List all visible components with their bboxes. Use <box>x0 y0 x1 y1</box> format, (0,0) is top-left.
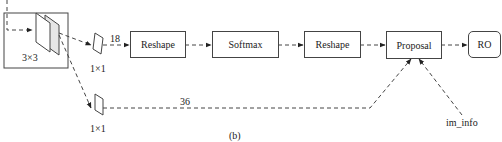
channels-36-label: 36 <box>180 97 190 107</box>
reshape-box-2: Reshape <box>304 31 361 58</box>
conv1x1-bottom-label: 1×1 <box>90 124 106 134</box>
channels-18-label: 18 <box>110 34 120 44</box>
conv1x1-bottom-plane <box>95 94 103 115</box>
figure-caption: (b) <box>229 131 241 141</box>
im-info-label: im_info <box>446 118 478 128</box>
conv3x3-label: 3×3 <box>22 53 38 63</box>
diagram-lines <box>0 0 502 142</box>
reshape-box-1: Reshape <box>130 31 186 58</box>
input-arrow <box>7 0 32 30</box>
conv1x1-top-label: 1×1 <box>90 64 106 74</box>
conv1x1-top-plane <box>93 33 103 54</box>
roi-box: RO <box>468 31 501 58</box>
proposal-box: Proposal <box>386 31 442 59</box>
softmax-box: Softmax <box>212 31 279 58</box>
